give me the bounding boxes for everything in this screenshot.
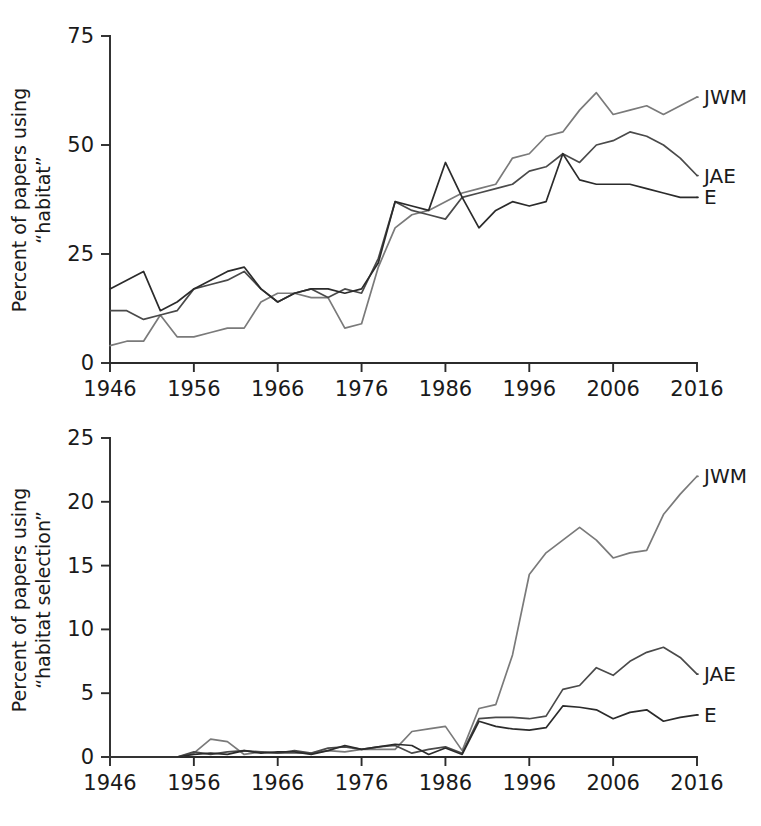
habitat-terminology-figure: 025507519461956196619761986199620062016P… [0,0,761,826]
y-tick-label: 5 [81,681,94,705]
y-tick-label: 75 [67,24,94,48]
chart-axes [110,36,697,363]
x-tick-label: 1976 [335,771,388,795]
x-tick-label: 1996 [503,377,556,401]
x-tick-label: 1986 [419,377,472,401]
x-tick-label: 1956 [167,771,220,795]
x-tick-label: 1996 [503,771,556,795]
chart-panel-habitat-selection: 0510152025194619561966197619861996200620… [0,400,761,826]
series-label-jae: JAE [702,164,736,188]
y-axis-title-line1: Percent of papers using [8,488,30,712]
x-tick-label: 2006 [586,377,639,401]
y-axis-title-line1: Percent of papers using [8,88,30,312]
series-label-jwm: JWM [702,464,747,488]
y-axis-title-line2: “habitat selection” [32,511,54,689]
series-line-jae [110,132,697,319]
y-tick-label: 25 [67,242,94,266]
x-tick-label: 1976 [335,377,388,401]
series-line-jwm [110,476,697,757]
y-axis-title-line2: “habitat” [32,156,54,243]
y-tick-label: 20 [67,490,94,514]
x-tick-label: 1956 [167,377,220,401]
y-tick-label: 50 [67,133,94,157]
y-tick-label: 15 [67,554,94,578]
series-line-jwm [110,93,697,346]
series-label-jae: JAE [702,662,736,686]
y-tick-label: 25 [67,426,94,450]
series-label-jwm: JWM [702,85,747,109]
y-tick-label: 0 [81,351,94,375]
series-label-e: E [704,703,717,727]
chart-axes [110,438,697,757]
series-label-e: E [704,185,717,209]
x-tick-label: 2016 [670,377,723,401]
x-tick-label: 2016 [670,771,723,795]
chart-panel-habitat: 025507519461956196619761986199620062016P… [0,0,761,413]
y-tick-label: 0 [81,745,94,769]
x-tick-label: 1946 [83,377,136,401]
habitat-selection-line-chart: 0510152025194619561966197619861996200620… [0,400,761,826]
x-tick-label: 1946 [83,771,136,795]
habitat-line-chart: 025507519461956196619761986199620062016P… [0,0,761,413]
series-line-e [110,154,697,311]
x-tick-label: 1966 [251,377,304,401]
x-tick-label: 2006 [586,771,639,795]
x-tick-label: 1986 [419,771,472,795]
y-tick-label: 10 [67,617,94,641]
x-tick-label: 1966 [251,771,304,795]
